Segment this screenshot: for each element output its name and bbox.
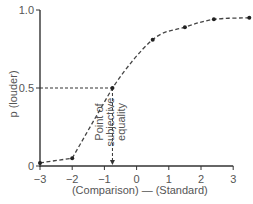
data-point (247, 16, 251, 20)
data-point (183, 25, 187, 29)
x-tick-label: 3 (230, 173, 236, 185)
axis-labels: 00.51.0−3−2−10123(Comparison) — (Standar… (7, 4, 236, 196)
psychometric-chart: 00.51.0−3−2−10123(Comparison) — (Standar… (0, 0, 253, 204)
x-tick-label: −3 (34, 173, 47, 185)
arrow-down-icon (110, 160, 115, 165)
y-tick-label: 0 (28, 160, 34, 172)
data-point (110, 86, 114, 90)
y-tick-label: 0.5 (19, 82, 34, 94)
x-axis-title: (Comparison) — (Standard) (72, 184, 208, 196)
pse-label-line: equality (115, 103, 127, 141)
data-point (38, 161, 42, 165)
axes (36, 10, 233, 170)
data-point (212, 17, 216, 21)
data-point (70, 156, 74, 160)
data-series (38, 16, 251, 165)
pse-annotation: Point ofsubjectiveequality (93, 98, 127, 147)
y-tick-label: 1.0 (19, 4, 34, 16)
y-axis-title: p (louder) (7, 70, 19, 117)
data-point (151, 38, 155, 42)
series-line (40, 18, 249, 163)
